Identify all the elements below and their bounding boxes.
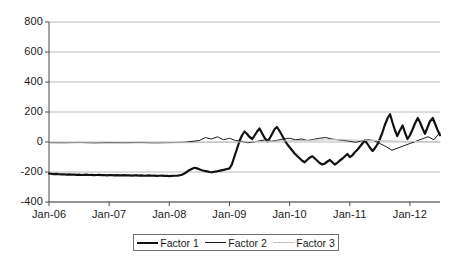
chart-legend: Factor 1 Factor 2 Factor 3 — [133, 234, 339, 251]
y-tick-label: -400 — [3, 195, 43, 207]
y-tick-label: 800 — [3, 15, 43, 27]
y-tick-label: 600 — [3, 45, 43, 57]
x-tick-label: Jan-12 — [382, 208, 438, 220]
legend-item-factor-3: Factor 3 — [273, 237, 335, 249]
legend-item-factor-1: Factor 1 — [137, 237, 199, 249]
y-tick-label: 200 — [3, 105, 43, 117]
legend-label-factor-3: Factor 3 — [296, 237, 335, 249]
y-axis-ticks — [45, 22, 49, 202]
y-tick-label: 400 — [3, 75, 43, 87]
series-line-1 — [49, 114, 440, 176]
data-series — [49, 114, 440, 176]
plot-canvas — [0, 0, 451, 266]
legend-item-factor-2: Factor 2 — [205, 237, 267, 249]
y-tick-label: 0 — [3, 135, 43, 147]
x-tick-label: Jan-07 — [81, 208, 137, 220]
x-tick-label: Jan-11 — [322, 208, 378, 220]
legend-swatch-factor-1 — [137, 242, 158, 244]
legend-label-factor-2: Factor 2 — [228, 237, 267, 249]
x-tick-label: Jan-09 — [201, 208, 257, 220]
legend-swatch-factor-2 — [205, 242, 226, 243]
legend-label-factor-1: Factor 1 — [160, 237, 199, 249]
legend-swatch-factor-3 — [273, 242, 294, 243]
x-axis-ticks — [49, 202, 410, 206]
x-tick-label: Jan-08 — [141, 208, 197, 220]
line-chart: 8006004002000-200-400 Jan-06Jan-07Jan-08… — [0, 0, 451, 266]
y-tick-label: -200 — [3, 165, 43, 177]
x-tick-label: Jan-10 — [262, 208, 318, 220]
x-tick-label: Jan-06 — [21, 208, 77, 220]
